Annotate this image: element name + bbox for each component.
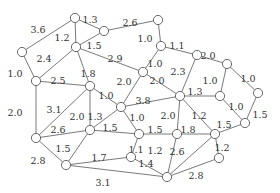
edge-weight-label: 2.6 bbox=[50, 124, 65, 135]
node-G bbox=[153, 15, 162, 24]
edge-weight-label: 1.5 bbox=[86, 40, 101, 51]
edge-weight-label: 1.0 bbox=[98, 90, 113, 101]
edge-weight-label: 2.3 bbox=[170, 66, 185, 77]
node-I bbox=[138, 67, 147, 76]
edge-weight-label: 1.8 bbox=[180, 124, 195, 135]
edge-weight-label: 1.3 bbox=[87, 111, 102, 122]
node-R bbox=[116, 102, 125, 111]
node-T bbox=[134, 129, 143, 138]
node-S bbox=[61, 160, 70, 169]
node-C bbox=[17, 47, 26, 56]
edge-weight-label: 3.1 bbox=[46, 104, 61, 115]
node-V bbox=[126, 152, 135, 161]
edge-weight-label: 1.0 bbox=[137, 33, 152, 44]
edge-weight-label: 1.3 bbox=[82, 14, 97, 25]
edge-weight-label: 1.0 bbox=[202, 75, 217, 86]
node-W bbox=[210, 129, 219, 138]
edge-weight-label: 1.0 bbox=[240, 73, 255, 84]
edge-weight-label: 2.8 bbox=[188, 170, 203, 181]
edge-weight-label: 1.2 bbox=[214, 142, 229, 153]
edge-weight-label: 1.5 bbox=[147, 124, 162, 135]
node-J bbox=[192, 50, 201, 59]
node-O bbox=[240, 118, 249, 127]
edge-weight-label: 2.0 bbox=[69, 111, 84, 122]
edge-weight-label: 1.0 bbox=[129, 112, 144, 123]
edge-weight-label: 2.6 bbox=[122, 17, 137, 28]
edge-weight-label: 1.5 bbox=[55, 143, 70, 154]
edge-weight-label: 1.2 bbox=[191, 110, 206, 121]
node-D bbox=[71, 42, 80, 51]
edge-weight-label: 3.6 bbox=[30, 24, 45, 35]
node-A bbox=[70, 13, 79, 22]
edge-weight-label: 1.5 bbox=[102, 122, 117, 133]
node-P bbox=[31, 133, 40, 142]
edge-weight-label: 1.0 bbox=[7, 68, 22, 79]
edge-weight-labels: 1.33.61.21.52.61.02.41.82.92.52.01.02.01… bbox=[7, 14, 267, 188]
edge-weight-label: 2.0 bbox=[160, 110, 175, 121]
node-B bbox=[99, 26, 108, 35]
edge-weight-label: 1.1 bbox=[169, 40, 184, 51]
edge-weight-label: 1.0 bbox=[147, 58, 162, 69]
node-U bbox=[172, 129, 181, 138]
edge-weight-label: 2.4 bbox=[36, 53, 51, 64]
edge-D-F bbox=[76, 47, 90, 86]
edge-weight-label: 1.2 bbox=[147, 145, 162, 156]
edge-weight-label: 2.0 bbox=[116, 76, 131, 87]
node-L bbox=[175, 91, 184, 100]
edge-weight-label: 3.1 bbox=[95, 177, 110, 188]
node-M bbox=[215, 91, 224, 100]
edge-weight-label: 1.0 bbox=[228, 101, 243, 112]
edge-weight-label: 1.4 bbox=[138, 158, 153, 169]
edge-weight-label: 2.0 bbox=[200, 50, 215, 61]
weighted-graph: 1.33.61.21.52.61.02.41.82.92.52.01.02.01… bbox=[0, 0, 280, 193]
edge-weight-label: 1.8 bbox=[80, 68, 95, 79]
node-H bbox=[156, 41, 165, 50]
edge-weight-label: 3.8 bbox=[135, 95, 150, 106]
edge-weight-label: 2.5 bbox=[50, 75, 65, 86]
edge-weight-label: 1.5 bbox=[216, 119, 231, 130]
node-Y bbox=[162, 172, 171, 181]
node-Q bbox=[85, 125, 94, 134]
edge-weight-label: 2.9 bbox=[107, 53, 122, 64]
edge-weight-label: 2.0 bbox=[149, 75, 164, 86]
node-F bbox=[85, 81, 94, 90]
node-K bbox=[222, 59, 231, 68]
node-N bbox=[253, 88, 262, 97]
node-E bbox=[31, 76, 40, 85]
edge-weight-label: 1.3 bbox=[187, 86, 202, 97]
edge-weight-label: 1.2 bbox=[54, 32, 69, 43]
edge-weight-label: 1.7 bbox=[91, 152, 106, 163]
node-X bbox=[214, 153, 223, 162]
edge-weight-label: 2.6 bbox=[169, 146, 184, 157]
edge-weight-label: 1.5 bbox=[252, 109, 267, 120]
edge-weight-label: 2.0 bbox=[7, 107, 22, 118]
edge-weight-label: 2.8 bbox=[30, 155, 45, 166]
